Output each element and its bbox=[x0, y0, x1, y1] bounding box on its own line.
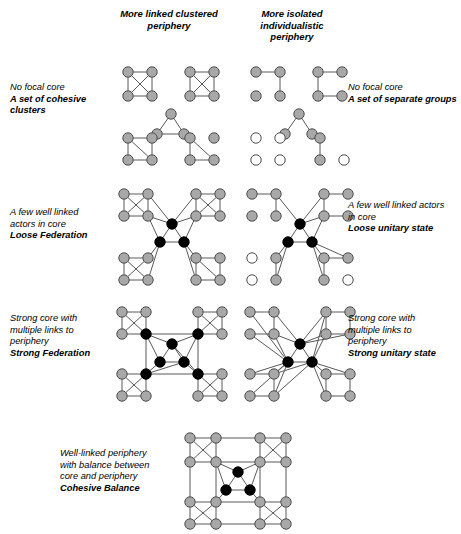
isolate-node bbox=[343, 275, 353, 285]
periphery-node bbox=[123, 133, 133, 143]
caption-loose-unitary-state: A few well linked actorsin coreLoose uni… bbox=[348, 200, 460, 235]
nodes-group bbox=[245, 307, 355, 401]
periphery-node bbox=[185, 155, 195, 165]
edges-group bbox=[124, 194, 220, 280]
periphery-node bbox=[321, 329, 331, 339]
periphery-node bbox=[217, 307, 227, 317]
periphery-node bbox=[245, 329, 255, 339]
graph-edge bbox=[250, 362, 288, 396]
periphery-node bbox=[185, 433, 195, 443]
nodes-group bbox=[117, 307, 227, 401]
core-node bbox=[155, 237, 165, 247]
periphery-node bbox=[217, 329, 227, 339]
periphery-node bbox=[281, 433, 291, 443]
periphery-node bbox=[321, 391, 331, 401]
caption-desc-line: multiple links to bbox=[10, 325, 105, 337]
periphery-node bbox=[185, 497, 195, 507]
caption-desc-line: periphery bbox=[10, 336, 105, 348]
caption-desc-line: in core bbox=[348, 212, 460, 224]
periphery-node bbox=[191, 253, 201, 263]
core-node bbox=[295, 339, 305, 349]
core-node bbox=[307, 357, 317, 367]
periphery-node bbox=[191, 275, 201, 285]
periphery-node bbox=[269, 391, 279, 401]
periphery-node bbox=[251, 67, 261, 77]
periphery-node bbox=[337, 67, 347, 77]
periphery-node bbox=[271, 211, 281, 221]
caption-loose-federation: A few well linkedactors in coreLoose Fed… bbox=[10, 207, 105, 242]
periphery-node bbox=[245, 307, 255, 317]
periphery-node bbox=[217, 391, 227, 401]
column-header-line: periphery bbox=[232, 31, 352, 43]
column-header-line: periphery bbox=[104, 20, 234, 32]
caption-label: Cohesive Balance bbox=[60, 483, 172, 495]
isolate-node bbox=[275, 133, 285, 143]
periphery-node bbox=[319, 189, 329, 199]
periphery-node bbox=[343, 253, 353, 263]
periphery-node bbox=[215, 189, 225, 199]
core-node bbox=[167, 219, 177, 229]
caption-strong-unitary-state: Strong core withmultiple links toperiphe… bbox=[348, 313, 458, 359]
periphery-node bbox=[281, 497, 291, 507]
column-header-line: More isolated bbox=[232, 8, 352, 20]
caption-desc-line: core and periphery bbox=[60, 471, 172, 483]
periphery-node bbox=[315, 133, 325, 143]
edges-group bbox=[190, 438, 286, 524]
periphery-node bbox=[119, 189, 129, 199]
periphery-node bbox=[211, 497, 221, 507]
caption-desc-line: No focal core bbox=[10, 82, 105, 94]
periphery-node bbox=[269, 307, 279, 317]
periphery-node bbox=[313, 91, 323, 101]
periphery-node bbox=[123, 67, 133, 77]
periphery-node bbox=[315, 155, 325, 165]
periphery-node bbox=[209, 67, 219, 77]
periphery-node bbox=[271, 253, 281, 263]
graph-cohesive-balance-svg bbox=[174, 424, 302, 534]
isolate-node bbox=[247, 253, 257, 263]
periphery-node bbox=[319, 211, 329, 221]
periphery-node bbox=[251, 91, 261, 101]
isolate-node bbox=[251, 155, 261, 165]
periphery-node bbox=[345, 391, 355, 401]
periphery-node bbox=[123, 91, 133, 101]
edges-group bbox=[250, 312, 350, 396]
caption-desc-line: Strong core with bbox=[10, 313, 105, 325]
column-header-line: individualistic bbox=[232, 20, 352, 32]
periphery-node bbox=[271, 189, 281, 199]
periphery-node bbox=[185, 133, 195, 143]
periphery-node bbox=[143, 275, 153, 285]
periphery-node bbox=[269, 329, 279, 339]
core-node bbox=[233, 467, 243, 477]
periphery-node bbox=[275, 67, 285, 77]
periphery-node bbox=[294, 109, 304, 119]
periphery-node bbox=[247, 189, 257, 199]
periphery-node bbox=[269, 369, 279, 379]
periphery-node bbox=[141, 391, 151, 401]
periphery-node bbox=[281, 519, 291, 529]
caption-label: Loose unitary state bbox=[348, 223, 460, 235]
periphery-node bbox=[147, 155, 157, 165]
periphery-node bbox=[215, 253, 225, 263]
caption-cohesive-clusters: No focal coreA set of cohesive clusters bbox=[10, 82, 105, 117]
caption-desc-line: with balance between bbox=[60, 460, 172, 472]
core-node bbox=[307, 237, 317, 247]
periphery-node bbox=[255, 433, 265, 443]
caption-cohesive-balance: Well-linked peripherywith balance betwee… bbox=[60, 448, 172, 494]
periphery-node bbox=[321, 307, 331, 317]
periphery-node bbox=[319, 275, 329, 285]
periphery-node bbox=[245, 369, 255, 379]
periphery-node bbox=[147, 67, 157, 77]
graph-loose-unitary-state-svg bbox=[234, 178, 368, 298]
caption-label: Strong Federation bbox=[10, 348, 105, 360]
periphery-node bbox=[247, 211, 257, 221]
core-node bbox=[221, 485, 231, 495]
periphery-node bbox=[321, 369, 331, 379]
graph-separate-groups bbox=[236, 52, 366, 179]
periphery-node bbox=[281, 457, 291, 467]
core-node bbox=[167, 339, 177, 349]
column-header-line: More linked clustered bbox=[104, 8, 234, 20]
caption-separate-groups: No focal coreA set of separate groups bbox=[348, 82, 458, 105]
periphery-node bbox=[119, 275, 129, 285]
core-node bbox=[245, 485, 255, 495]
